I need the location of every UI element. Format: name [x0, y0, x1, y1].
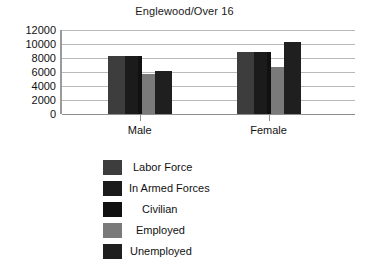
legend-swatch [103, 160, 122, 175]
legend-swatch [103, 181, 122, 196]
y-tick-label: 6000 [32, 67, 56, 77]
x-category-label: Male [128, 124, 152, 136]
y-tick-label: 0 [50, 109, 56, 119]
legend-swatch [103, 223, 122, 238]
y-tick-label: 10000 [25, 39, 56, 49]
gridline [62, 114, 355, 115]
x-category-label: Female [250, 124, 287, 136]
x-tick [269, 114, 270, 121]
bar [142, 74, 155, 114]
legend-label: In Armed Forces [129, 182, 210, 194]
chart-page: Englewood/Over 16 1200010000800060004000… [0, 0, 369, 273]
x-tick [140, 114, 141, 121]
bar [284, 42, 301, 114]
legend-label: Civilian [142, 203, 177, 215]
legend-swatch [103, 202, 122, 217]
bar [271, 67, 284, 114]
bars-container [62, 30, 355, 114]
legend-item[interactable]: Employed [0, 221, 369, 242]
legend-label: Unemployed [130, 245, 192, 257]
y-tick-label: 8000 [32, 53, 56, 63]
plot-area [62, 30, 355, 114]
bar [155, 71, 172, 114]
legend-label: Labor Force [133, 161, 192, 173]
legend-item[interactable]: In Armed Forces [0, 179, 369, 200]
bar [125, 56, 138, 114]
chart-area: 120001000080006000400020000 MaleFemale [0, 24, 369, 144]
legend-item[interactable]: Unemployed [0, 242, 369, 263]
bar [237, 52, 254, 114]
x-axis-category-labels: MaleFemale [62, 124, 355, 140]
legend-item[interactable]: Civilian [0, 200, 369, 221]
chart-legend: Labor ForceIn Armed ForcesCivilianEmploy… [0, 158, 369, 263]
chart-title: Englewood/Over 16 [0, 5, 369, 17]
legend-swatch [103, 244, 122, 259]
legend-label: Employed [136, 224, 185, 236]
bar [254, 52, 267, 114]
y-tick-label: 12000 [25, 25, 56, 35]
y-tick-label: 4000 [32, 81, 56, 91]
y-tick-label: 2000 [32, 95, 56, 105]
y-axis-labels: 120001000080006000400020000 [0, 24, 56, 116]
legend-item[interactable]: Labor Force [0, 158, 369, 179]
bar [108, 56, 125, 114]
